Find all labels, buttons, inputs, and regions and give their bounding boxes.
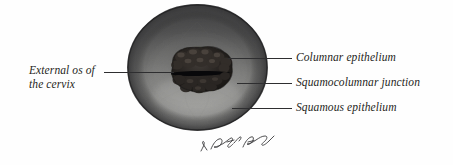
cervix-figure: Columnar epithelium Squamocolumnar junct… (0, 0, 453, 165)
label-external-os-line2: the cervix (29, 78, 107, 92)
leader-line-squamocolumnar-junction (237, 83, 292, 84)
cervix-illustration (127, 4, 268, 131)
label-external-os: External os ofthe cervix (29, 64, 107, 91)
artist-signature (196, 131, 276, 157)
cervix-sphere-graphic (127, 4, 268, 131)
external-os (171, 47, 232, 93)
label-external-os-line1: External os of (29, 64, 95, 76)
label-squamous-epithelium: Squamous epithelium (296, 101, 397, 115)
label-squamocolumnar-junction: Squamocolumnar junction (296, 76, 420, 90)
leader-line-external-os (104, 72, 174, 73)
artist-signature-graphic (196, 131, 276, 157)
leader-line-columnar-epithelium (228, 58, 292, 59)
label-columnar-epithelium: Columnar epithelium (296, 51, 396, 65)
leader-line-squamous-epithelium (232, 108, 292, 109)
